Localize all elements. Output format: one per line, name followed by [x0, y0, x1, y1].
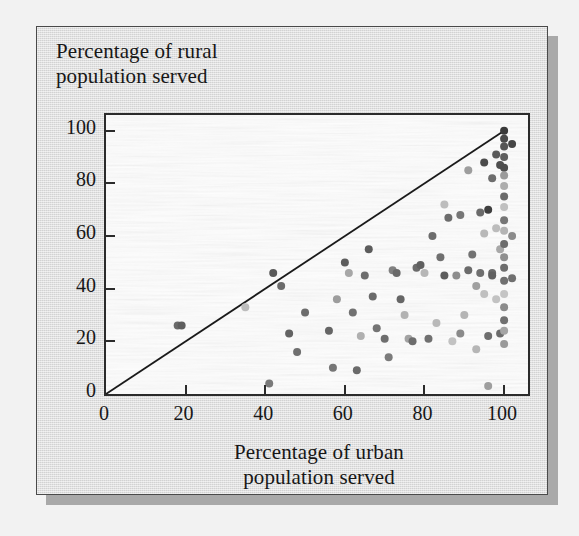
scatter-point	[492, 295, 500, 303]
scatter-point	[341, 258, 349, 266]
y-axis-label-line1: Percentage of rural	[56, 39, 356, 64]
x-tick-mark	[264, 385, 266, 394]
scatter-points	[106, 115, 528, 394]
y-axis-label: Percentage of rural population served	[56, 39, 356, 89]
x-tick-mark	[423, 385, 425, 394]
y-tick-label: 100	[50, 116, 96, 139]
scatter-point	[369, 293, 377, 301]
scatter-point	[500, 340, 508, 348]
y-tick-label: 0	[50, 379, 96, 402]
scatter-point	[293, 348, 301, 356]
scatter-point	[285, 329, 293, 337]
scatter-point	[476, 208, 484, 216]
scatter-point	[381, 335, 389, 343]
y-tick-label: 60	[50, 221, 96, 244]
x-tick-mark	[503, 385, 505, 394]
x-tick-label: 60	[320, 402, 366, 425]
y-tick-mark	[106, 340, 115, 342]
scatter-point	[508, 232, 516, 240]
scatter-point	[500, 143, 508, 151]
scatter-point	[472, 345, 480, 353]
scatter-point	[333, 295, 341, 303]
scatter-point	[500, 182, 508, 190]
x-tick-label: 100	[479, 402, 525, 425]
x-tick-label: 80	[399, 402, 445, 425]
scatter-point	[349, 308, 357, 316]
scatter-point	[500, 316, 508, 324]
y-tick-mark	[106, 235, 115, 237]
x-tick-mark	[185, 385, 187, 394]
scatter-point	[500, 277, 508, 285]
y-tick-mark	[106, 182, 115, 184]
scatter-point	[440, 272, 448, 280]
scatter-point	[484, 332, 492, 340]
scatter-point	[500, 227, 508, 235]
scatter-point	[500, 164, 508, 172]
scatter-point	[500, 203, 508, 211]
scatter-point	[325, 327, 333, 335]
figure-panel: Percentage of rural population served Pe…	[36, 26, 548, 495]
scatter-point	[440, 200, 448, 208]
scatter-point	[480, 158, 488, 166]
y-tick-label: 80	[50, 168, 96, 191]
scatter-point	[428, 232, 436, 240]
scatter-point	[484, 382, 492, 390]
scatter-point	[500, 172, 508, 180]
scatter-point	[464, 266, 472, 274]
scatter-point	[357, 332, 365, 340]
scatter-point	[484, 206, 492, 214]
scatter-point	[448, 337, 456, 345]
scatter-point	[500, 127, 508, 135]
x-axis-label: Percentage of urban population served	[104, 440, 534, 490]
scatter-point	[500, 216, 508, 224]
scatter-point	[436, 253, 444, 261]
x-tick-label: 0	[81, 402, 127, 425]
scatter-point	[456, 211, 464, 219]
scatter-point	[365, 245, 373, 253]
scatter-point	[393, 269, 401, 277]
scatter-point	[424, 335, 432, 343]
scatter-point	[472, 282, 480, 290]
scatter-point	[500, 193, 508, 201]
x-axis-label-line1: Percentage of urban	[104, 440, 534, 465]
scatter-point	[277, 282, 285, 290]
scatter-point	[345, 269, 353, 277]
scatter-point	[500, 135, 508, 143]
scatter-point	[361, 272, 369, 280]
scatter-point	[468, 251, 476, 259]
scatter-point	[456, 329, 464, 337]
scatter-point	[432, 319, 440, 327]
scatter-point	[417, 261, 425, 269]
scatter-point	[353, 366, 361, 374]
scatter-point	[385, 353, 393, 361]
scatter-point	[500, 327, 508, 335]
scatter-point	[508, 140, 516, 148]
scatter-point	[329, 364, 337, 372]
scatter-point	[401, 311, 409, 319]
scatter-point	[492, 224, 500, 232]
scatter-point	[420, 269, 428, 277]
figure-root: Percentage of rural population served Pe…	[0, 0, 579, 536]
scatter-point	[500, 253, 508, 261]
x-axis-label-line2: population served	[104, 465, 534, 490]
scatter-point	[500, 264, 508, 272]
scatter-point	[500, 240, 508, 248]
plot-area	[104, 113, 530, 396]
y-tick-mark	[106, 130, 115, 132]
scatter-point	[301, 308, 309, 316]
scatter-point	[397, 295, 405, 303]
scatter-point	[241, 303, 249, 311]
x-tick-mark	[344, 385, 346, 394]
scatter-point	[444, 214, 452, 222]
scatter-point	[488, 174, 496, 182]
y-tick-label: 20	[50, 326, 96, 349]
x-tick-label: 20	[161, 402, 207, 425]
scatter-point	[265, 379, 273, 387]
scatter-point	[480, 290, 488, 298]
scatter-point	[178, 322, 186, 330]
scatter-point	[373, 324, 381, 332]
scatter-point	[480, 229, 488, 237]
scatter-point	[508, 274, 516, 282]
y-tick-label: 40	[50, 274, 96, 297]
scatter-point	[409, 337, 417, 345]
